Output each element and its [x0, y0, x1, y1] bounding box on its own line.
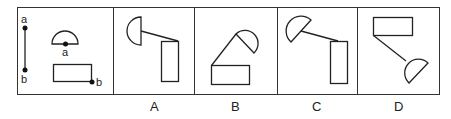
- rectangle: [331, 42, 348, 84]
- connector-line: [374, 36, 407, 62]
- label-a-semicircle: a: [62, 46, 69, 58]
- option-d-figure[interactable]: [374, 18, 429, 84]
- semicircle: [127, 17, 141, 45]
- option-c-label[interactable]: C: [312, 99, 321, 114]
- puzzle-figure: a b a b A B C D: [0, 0, 451, 119]
- rectangle: [374, 18, 413, 36]
- connector-line: [301, 31, 338, 41]
- rectangle: [162, 42, 179, 82]
- point-b-dot: [23, 68, 28, 73]
- label-b-rectangle: b: [96, 76, 102, 88]
- rectangle: [212, 66, 250, 85]
- label-b-bottom: b: [21, 73, 27, 85]
- label-a-top: a: [21, 13, 28, 25]
- semicircle: [236, 30, 258, 53]
- semicircle: [405, 59, 428, 83]
- option-b-label[interactable]: B: [231, 99, 240, 114]
- point-a-dot: [23, 26, 28, 31]
- question-panel: [25, 28, 92, 82]
- rectangle: [54, 65, 92, 82]
- option-a-label[interactable]: A: [150, 99, 159, 114]
- option-a-figure[interactable]: [127, 17, 178, 82]
- option-c-figure[interactable]: [286, 16, 347, 83]
- connector-line: [141, 31, 178, 41]
- semicircle: [286, 16, 311, 42]
- option-b-figure[interactable]: [212, 30, 259, 84]
- connector-line: [212, 34, 237, 66]
- rectangle-b-dot: [90, 80, 95, 85]
- option-d-label[interactable]: D: [394, 99, 403, 114]
